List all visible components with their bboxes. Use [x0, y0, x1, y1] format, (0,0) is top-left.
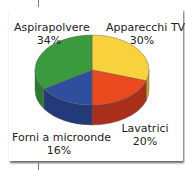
label-name: Forni a microonde — [12, 131, 106, 144]
label-pct: 20% — [120, 135, 170, 148]
label-pct: 16% — [12, 144, 106, 157]
label-name: Lavatrici — [120, 122, 170, 135]
label-aspirapolvere: Aspirapolvere 34% — [14, 21, 84, 47]
label-pct: 34% — [14, 34, 84, 47]
label-forni-a-microonde: Forni a microonde 16% — [12, 131, 106, 157]
label-apparecchi-tv: Apparecchi TV 30% — [106, 21, 178, 47]
label-pct: 30% — [106, 34, 178, 47]
label-name: Aspirapolvere — [14, 21, 84, 34]
label-name: Apparecchi TV — [106, 21, 178, 34]
label-lavatrici: Lavatrici 20% — [120, 122, 170, 148]
